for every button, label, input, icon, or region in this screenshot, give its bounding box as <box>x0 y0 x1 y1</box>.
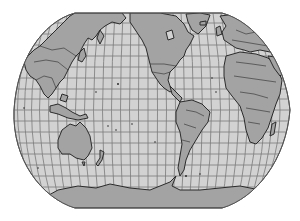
world-map <box>0 0 300 221</box>
